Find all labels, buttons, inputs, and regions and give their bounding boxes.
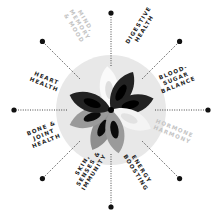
- wellness-wheel-diagram: MIND,MEMORY& MOODDIGESTIVEHEALTHBLOOD-SU…: [0, 0, 224, 222]
- spoke-dot-bottom: [108, 204, 113, 209]
- flower-center: [108, 107, 114, 113]
- spoke-dot-digestive: [177, 39, 182, 44]
- spoke-dot-hormone: [177, 176, 182, 181]
- label-mind-memory-mood: MIND,MEMORY& MOOD: [63, 5, 98, 45]
- label-blood-sugar-balance: BLOOD-SUGARBALANCE: [155, 62, 196, 94]
- label-bone-joint-health: BONE &JOINTHEALTH: [26, 120, 62, 150]
- spoke-dot-skin: [40, 176, 45, 181]
- spoke-dot-right: [205, 107, 210, 112]
- label-digestive-health: DIGESTIVEHEALTH: [124, 5, 158, 48]
- spoke-dot-top: [108, 10, 113, 15]
- label-hormone-harmony: HORMONEHARMONY: [152, 118, 194, 145]
- label-heart-health: HEARTHEALTH: [29, 70, 62, 93]
- spoke-dot-heart: [40, 39, 45, 44]
- spoke-dot-left: [11, 107, 16, 112]
- spoke-line-heart: [42, 41, 79, 78]
